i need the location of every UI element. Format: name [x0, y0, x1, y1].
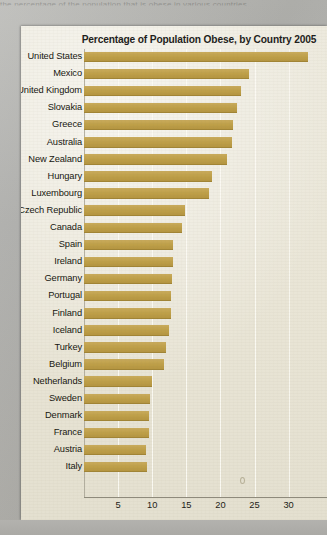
bar-row: Austria [21, 442, 327, 459]
bar-category-label: Ireland [21, 256, 82, 266]
bar [84, 291, 171, 302]
bar [84, 120, 233, 131]
bar-category-label: Denmark [21, 410, 82, 420]
bar [84, 205, 185, 216]
bar-row: France [21, 425, 327, 442]
bar [84, 52, 308, 63]
bar-category-label: Iceland [21, 325, 82, 335]
bar [84, 69, 249, 80]
bar-row: Iceland [21, 323, 327, 340]
bar-row: Germany [21, 271, 327, 288]
bar [84, 86, 241, 97]
bar-row: Hungary [21, 169, 327, 186]
bar-category-label: Turkey [21, 342, 82, 352]
bar-row: United States [21, 49, 327, 66]
paper-speck [240, 477, 245, 484]
bar-row: Spain [21, 237, 327, 254]
bar-category-label: Austria [21, 444, 82, 454]
bar-category-label: New Zealand [21, 154, 82, 164]
plot-area: United StatesMexicoUnited KingdomSlovaki… [21, 49, 327, 497]
bar-row: Greece [21, 117, 327, 134]
bar-category-label: Netherlands [21, 376, 82, 386]
x-tick-label: 15 [171, 500, 201, 510]
bar-row: New Zealand [21, 152, 327, 169]
bar-row: Slovakia [21, 100, 327, 117]
bar-category-label: Finland [21, 308, 82, 318]
x-axis: 51015202530 [21, 497, 327, 520]
bar [84, 376, 152, 387]
x-tick-label: 30 [274, 500, 304, 510]
bar [84, 103, 237, 114]
bar [84, 188, 209, 199]
bar-category-label: France [21, 427, 82, 437]
bar-category-label: Czech Republic [21, 205, 82, 215]
bar-row: Portugal [21, 288, 327, 305]
bar-row: Australia [21, 135, 327, 152]
bar-row: Czech Republic [21, 203, 327, 220]
bar-row: Sweden [21, 391, 327, 408]
bar [84, 154, 227, 165]
bar-category-label: Luxembourg [21, 188, 82, 198]
bar [84, 428, 149, 439]
bar [84, 223, 182, 234]
bar [84, 257, 173, 268]
bar-category-label: Germany [21, 273, 82, 283]
bar-row: Luxembourg [21, 186, 327, 203]
bar-category-label: United States [21, 51, 82, 61]
bar-category-label: Italy [21, 461, 82, 471]
bar [84, 137, 232, 148]
bar [84, 411, 149, 422]
bar-category-label: Spain [21, 239, 82, 249]
bar-row: Ireland [21, 254, 327, 271]
bar-category-label: Australia [21, 137, 82, 147]
bar [84, 171, 212, 182]
bar-category-label: Mexico [21, 68, 82, 78]
bar [84, 274, 172, 285]
chart-figure: Percentage of Population Obese, by Count… [21, 26, 327, 520]
x-tick-label: 20 [205, 500, 235, 510]
bar-row: Denmark [21, 408, 327, 425]
bar-row: Mexico [21, 66, 327, 83]
bar [84, 359, 164, 370]
bar [84, 394, 150, 405]
x-axis-rule [84, 497, 327, 498]
x-tick-label: 25 [240, 500, 270, 510]
x-tick-label: 10 [137, 500, 167, 510]
bar-row: United Kingdom [21, 83, 327, 100]
bar-row: Finland [21, 306, 327, 323]
bar-category-label: Hungary [21, 171, 82, 181]
bar [84, 445, 146, 456]
bar-row: Italy [21, 459, 327, 476]
bar-row: Netherlands [21, 374, 327, 391]
bar [84, 342, 166, 353]
page-bottom-strip [0, 520, 327, 535]
bar-category-label: Greece [21, 119, 82, 129]
bar-row: Canada [21, 220, 327, 237]
chart-title: Percentage of Population Obese, by Count… [73, 34, 325, 45]
bar-category-label: Canada [21, 222, 82, 232]
bar [84, 325, 169, 336]
x-tick-label: 5 [103, 500, 133, 510]
bar [84, 240, 173, 251]
bar-category-label: Belgium [21, 359, 82, 369]
bar-row: Belgium [21, 357, 327, 374]
bar [84, 308, 171, 319]
bar-category-label: Sweden [21, 393, 82, 403]
bar-category-label: Portugal [21, 290, 82, 300]
bar [84, 462, 147, 473]
bar-row: Turkey [21, 340, 327, 357]
bar-category-label: United Kingdom [21, 85, 82, 95]
bar-category-label: Slovakia [21, 102, 82, 112]
